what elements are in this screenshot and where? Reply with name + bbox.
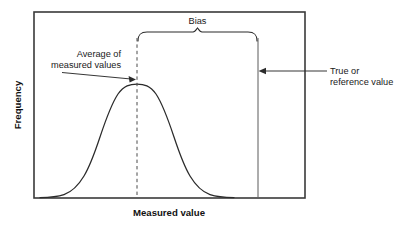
average-label-arrow-head (129, 76, 136, 82)
bias-label: Bias (189, 16, 207, 26)
average-label-line1: Average of (77, 49, 122, 59)
y-axis-label: Frequency (12, 80, 23, 129)
true-value-arrow-head (259, 68, 267, 74)
plot-frame (34, 12, 305, 198)
bias-brace (138, 28, 257, 41)
true-value-label-line2: reference value (330, 77, 393, 87)
x-axis-label: Measured value (133, 207, 205, 218)
average-label-arrow-line (62, 73, 131, 80)
average-label-line2: measured values (51, 60, 121, 70)
figure-container: Bias Average of measured values True or … (0, 0, 404, 231)
true-value-label-line1: True or (330, 66, 359, 76)
bias-distribution-figure: Bias Average of measured values True or … (0, 0, 404, 231)
